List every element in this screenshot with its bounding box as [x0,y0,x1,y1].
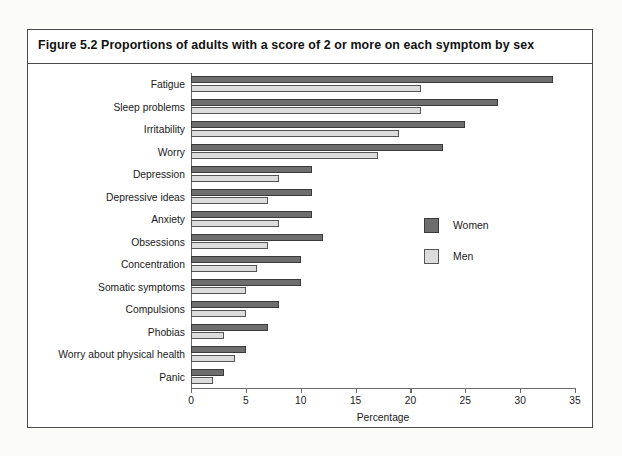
bar-men [191,107,421,114]
bar-women [191,234,323,241]
bar-women [191,189,312,196]
bar-row: Depressive ideas [191,186,575,209]
bar-women [191,76,553,83]
legend-swatch-men-icon [424,249,439,264]
bar-women [191,144,443,151]
legend-swatch-women-icon [424,218,439,233]
y-axis-category-label: Worry about physical health [58,349,185,360]
x-axis-title: Percentage [191,412,575,423]
y-axis-category-label: Compulsions [125,304,185,315]
bar-men [191,332,224,339]
bar-row: Anxiety [191,208,575,231]
bar-men [191,310,246,317]
bar-women [191,99,498,106]
bar-row: Somatic symptoms [191,276,575,299]
bar-women [191,324,268,331]
bar-men [191,242,268,249]
bar-women [191,121,465,128]
y-axis-category-label: Anxiety [151,214,185,225]
y-axis-category-label: Depression [133,169,185,180]
bar-women [191,211,312,218]
x-axis-tick [356,388,357,393]
x-axis-tick-label: 5 [243,395,249,406]
legend-label-men: Men [453,251,473,262]
y-axis-category-label: Fatigue [151,79,185,90]
legend-item-men: Men [424,249,489,264]
y-axis-category-label: Sleep problems [113,101,185,112]
figure-frame: Figure 5.2 Proportions of adults with a … [27,29,593,428]
bar-row: Obsessions [191,231,575,254]
x-axis-tick-label: 35 [569,395,580,406]
x-axis-tick-label: 25 [460,395,471,406]
bar-men [191,355,235,362]
chart-plot-area: FatigueSleep problemsIrritabilityWorryDe… [191,73,575,388]
y-axis-category-label: Phobias [148,326,185,337]
bar-women [191,256,301,263]
bar-men [191,175,279,182]
bar-row: Fatigue [191,73,575,96]
figure-title: Figure 5.2 Proportions of adults with a … [38,38,534,52]
bar-men [191,85,421,92]
y-axis-category-label: Concentration [121,259,185,270]
bar-men [191,130,399,137]
bar-row: Phobias [191,321,575,344]
bar-men [191,220,279,227]
y-axis-category-label: Panic [159,371,185,382]
y-axis-category-label: Obsessions [131,236,185,247]
title-divider [28,63,592,64]
bar-row: Depression [191,163,575,186]
bar-row: Compulsions [191,298,575,321]
bar-row: Worry [191,141,575,164]
x-axis-tick [246,388,247,393]
y-axis-category-label: Worry [158,146,185,157]
x-axis-tick [575,388,576,393]
x-axis-tick [465,388,466,393]
x-axis-tick [410,388,411,393]
bar-women [191,301,279,308]
bar-row: Concentration [191,253,575,276]
legend-item-women: Women [424,218,489,233]
bar-women [191,166,312,173]
x-axis-line [191,388,575,389]
x-axis-tick-label: 10 [295,395,306,406]
bar-men [191,377,213,384]
x-axis-tick [520,388,521,393]
bar-women [191,279,301,286]
bar-row: Worry about physical health [191,343,575,366]
bar-women [191,346,246,353]
bar-men [191,152,378,159]
y-axis-category-label: Irritability [144,124,185,135]
bar-men [191,197,268,204]
x-axis-tick-label: 15 [350,395,361,406]
y-axis-category-label: Depressive ideas [106,191,185,202]
bar-men [191,287,246,294]
x-axis-tick-label: 20 [405,395,416,406]
bar-men [191,265,257,272]
bar-row: Sleep problems [191,96,575,119]
chart-legend: Women Men [424,218,489,280]
x-axis-tick-label: 0 [188,395,194,406]
figure-page: Figure 5.2 Proportions of adults with a … [0,0,622,456]
y-axis-category-label: Somatic symptoms [98,281,185,292]
bar-women [191,369,224,376]
x-axis-tick [191,388,192,393]
legend-label-women: Women [453,220,489,231]
bar-row: Panic [191,366,575,389]
x-axis-tick-label: 30 [514,395,525,406]
bar-row: Irritability [191,118,575,141]
x-axis-tick [301,388,302,393]
